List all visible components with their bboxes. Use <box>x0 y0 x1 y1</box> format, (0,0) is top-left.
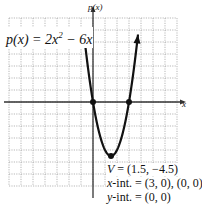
xint-value: -int. = (3, 0), (0, 0) <box>112 176 202 190</box>
equation-prefix: p(x) = 2x <box>6 32 58 47</box>
function-equation: p(x) = 2x2 − 6x <box>5 27 93 48</box>
vertex-annotation: V = (1.5, −4.5) <box>106 163 180 176</box>
yint-value: -int. = (0, 0) <box>112 190 170 204</box>
y-intercept-annotation: y-int. = (0, 0) <box>106 191 173 204</box>
y-axis-label: p(x) <box>88 2 103 12</box>
x-intercept-annotation: x-int. = (3, 0), (0, 0) <box>106 177 202 190</box>
x-axis-label: x <box>182 99 186 109</box>
key-points <box>82 35 141 160</box>
equation-suffix: − 6x <box>63 32 93 47</box>
vertex-value: = (1.5, −4.5) <box>114 162 178 176</box>
